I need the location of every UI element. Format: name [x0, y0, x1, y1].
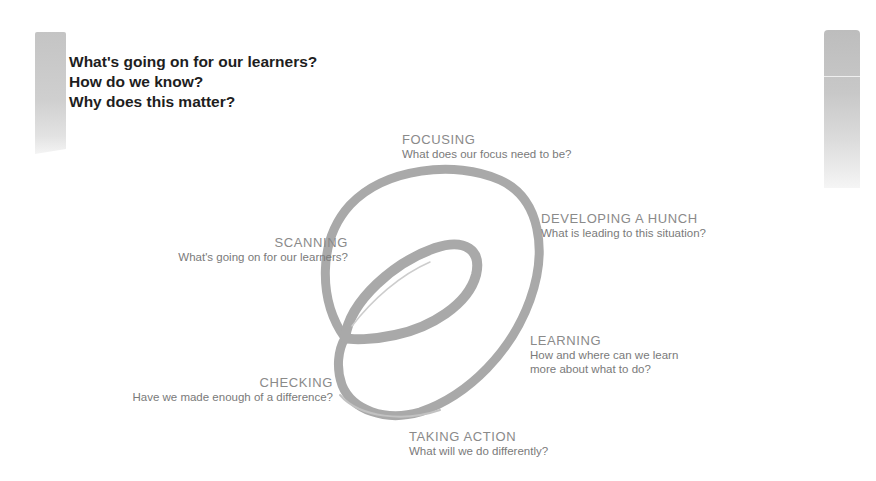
stage-scanning: SCANNING What's going on for our learner… [178, 236, 348, 264]
stage-developing-a-hunch: DEVELOPING A HUNCH What is leading to th… [541, 212, 706, 240]
stage-desc: What's going on for our learners? [178, 250, 348, 264]
stage-desc: Have we made enough of a difference? [132, 390, 333, 404]
stage-title: CHECKING [132, 376, 333, 390]
stage-title: DEVELOPING A HUNCH [541, 212, 706, 226]
stage-learning: LEARNING How and where can we learn more… [530, 334, 678, 376]
stage-desc: What will we do differently? [409, 444, 548, 458]
stage-checking: CHECKING Have we made enough of a differ… [132, 376, 333, 404]
stage-desc: What does our focus need to be? [402, 147, 571, 161]
stage-desc: What is leading to this situation? [541, 226, 706, 240]
stage-desc-line1: How and where can we learn [530, 348, 678, 362]
stage-taking-action: TAKING ACTION What will we do differentl… [409, 430, 548, 458]
stage-title: SCANNING [178, 236, 348, 250]
stage-desc-line2: more about what to do? [530, 362, 678, 376]
spiral-of-inquiry-graphic [0, 0, 876, 481]
stage-title: FOCUSING [402, 133, 571, 147]
stage-title: TAKING ACTION [409, 430, 548, 444]
stage-title: LEARNING [530, 334, 678, 348]
stage-focusing: FOCUSING What does our focus need to be? [402, 133, 571, 161]
